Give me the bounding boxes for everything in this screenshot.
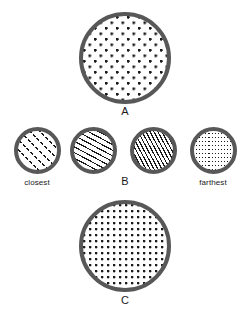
figure-canvas: A closest B farthest C [0, 0, 250, 316]
label-a: A [79, 106, 171, 117]
circle-b4-vertical-dotted [190, 127, 237, 174]
label-farthest: farthest [176, 179, 250, 187]
circle-b3-solid-diagonal-shallow [130, 127, 177, 174]
circle-c-dense-dots [79, 200, 171, 292]
circle-a-sparse-dots [79, 12, 171, 104]
circle-b1-dashed-diagonal [14, 127, 61, 174]
circle-b2-solid-diagonal-steep [70, 127, 117, 174]
label-b: B [103, 176, 147, 187]
label-c: C [79, 295, 171, 306]
label-closest: closest [0, 179, 74, 187]
